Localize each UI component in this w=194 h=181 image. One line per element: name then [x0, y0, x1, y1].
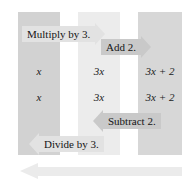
operation-add-2-label: Add 2.: [101, 39, 141, 55]
arrow-left-icon: [29, 133, 39, 155]
cell-3x-plus-2-inverse: 3x + 2: [138, 91, 182, 103]
operation-divide-by-3-label: Divide by 3.: [39, 136, 104, 152]
return-arrow-tail: [38, 167, 182, 176]
operation-add-2: Add 2.: [101, 36, 151, 58]
arrow-left-icon: [93, 110, 103, 132]
operation-multiply-by-3: Multiply by 3.: [22, 23, 105, 45]
cell-3x-inverse: 3x: [78, 91, 120, 103]
cell-3x-plus-2-forward: 3x + 2: [138, 65, 182, 77]
operation-subtract-2: Subtract 2.: [93, 110, 161, 132]
arrow-left-icon: [20, 163, 38, 179]
operation-subtract-2-label: Subtract 2.: [103, 113, 161, 129]
return-arrow: [20, 163, 182, 179]
column-3x-plus-2: [138, 12, 182, 155]
cell-3x-forward: 3x: [78, 65, 120, 77]
cell-x-inverse: x: [18, 91, 60, 103]
arrow-right-icon: [141, 36, 151, 58]
cell-x-forward: x: [18, 65, 60, 77]
operation-divide-by-3: Divide by 3.: [29, 133, 104, 155]
operation-multiply-by-3-label: Multiply by 3.: [22, 26, 95, 42]
diagram-canvas: Multiply by 3. Add 2. x 3x 3x + 2 x 3x 3…: [0, 0, 194, 181]
